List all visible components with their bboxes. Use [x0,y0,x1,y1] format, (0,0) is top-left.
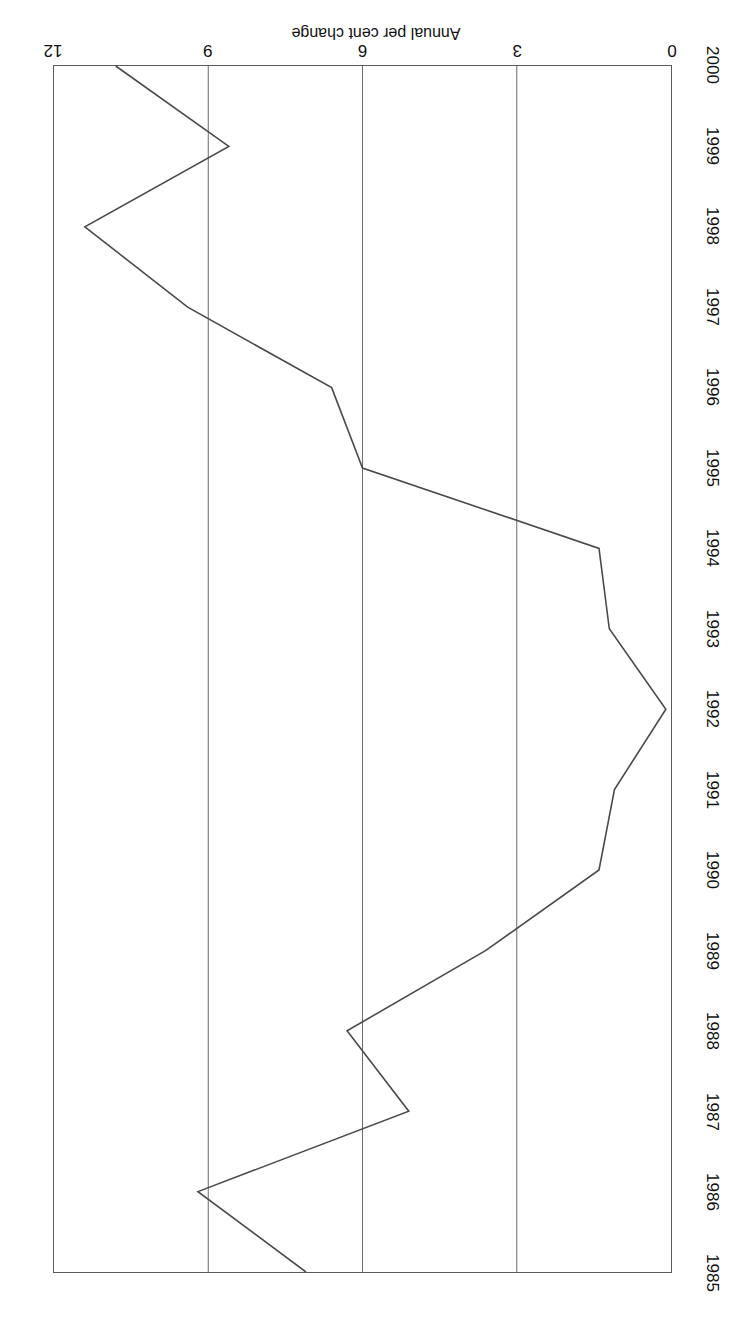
category-tick-label-1992: 1992 [704,690,721,728]
rotated-figure-wrapper: 036912 Annual per cent change 1985198619… [0,0,752,1338]
plot-area [53,65,672,1273]
category-tick-label-1988: 1988 [704,1012,721,1050]
value-tick-label-3: 3 [513,42,522,59]
category-tick-label-1991: 1991 [704,771,721,809]
category-tick-label-1986: 1986 [704,1174,721,1212]
category-tick-label-1993: 1993 [704,610,721,648]
value-tick-label-9: 9 [203,42,212,59]
category-tick-label-1996: 1996 [704,368,721,406]
category-tick-label-1998: 1998 [704,207,721,245]
value-tick-label-6: 6 [358,42,367,59]
category-tick-label-1990: 1990 [704,851,721,889]
category-axis: 1985198619871988198919901991199219931994… [672,65,752,1273]
category-tick-label-1987: 1987 [704,1093,721,1131]
value-tick-label-12: 12 [44,42,63,59]
category-tick-label-1997: 1997 [704,288,721,326]
category-tick-label-1995: 1995 [704,449,721,487]
gridlines-group [208,66,517,1272]
category-tick-label-1989: 1989 [704,932,721,970]
axis-title: Annual per cent change [0,24,752,42]
category-tick-label-1994: 1994 [704,529,721,567]
data-series-polyline [85,66,666,1272]
series-line [54,66,671,1272]
value-tick-label-0: 0 [667,42,676,59]
category-tick-label-1985: 1985 [704,1254,721,1292]
line-chart-figure: 036912 Annual per cent change 1985198619… [0,0,752,1338]
category-tick-label-2000: 2000 [704,46,721,84]
category-tick-label-1999: 1999 [704,127,721,165]
